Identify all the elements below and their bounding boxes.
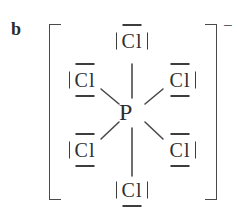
atom-label-cl-upper-right: Cl (170, 70, 191, 90)
lone-pair-bottom-icon (76, 95, 95, 97)
atom-phosphorus: P (119, 100, 133, 124)
lone-pair-top-icon (171, 63, 190, 65)
atom-label-cl-lower-right: Cl (170, 140, 191, 160)
lone-pair-left-icon (69, 142, 71, 159)
lone-pair-bottom-icon (171, 165, 190, 167)
lone-pair-top-icon (76, 63, 95, 65)
bond-p-cl-lr (145, 122, 163, 139)
atom-label-cl-top: Cl (122, 31, 143, 51)
atom-chlorine-upper-left: Cl (63, 70, 107, 96)
lone-pair-left-icon (116, 182, 118, 199)
bracket-left (49, 24, 61, 200)
bond-p-cl-ll (101, 122, 119, 139)
lone-pair-left-icon (69, 72, 71, 89)
atom-chlorine-top: Cl (110, 31, 154, 57)
atom-chlorine-lower-left: Cl (63, 140, 107, 166)
lone-pair-right-icon (147, 182, 149, 199)
lone-pair-left-icon (116, 33, 118, 50)
part-label: b (11, 20, 21, 38)
lewis-structure-figure: b − P Cl Cl Cl Cl Cl Cl (0, 0, 245, 222)
lone-pair-top-icon (123, 24, 142, 26)
atom-chlorine-lower-right: Cl (158, 140, 202, 166)
atom-chlorine-upper-right: Cl (158, 70, 202, 96)
atom-label-p: P (119, 100, 133, 124)
lone-pair-bottom-icon (171, 95, 190, 97)
atom-label-cl-bottom: Cl (122, 180, 143, 200)
atom-label-cl-upper-left: Cl (75, 70, 96, 90)
lone-pair-bottom-icon (76, 165, 95, 167)
lone-pair-right-icon (195, 72, 197, 89)
lone-pair-bottom-icon (123, 205, 142, 207)
lone-pair-right-icon (195, 142, 197, 159)
charge-superscript: − (223, 17, 233, 34)
lone-pair-top-icon (76, 133, 95, 135)
bracket-right (205, 24, 217, 200)
lone-pair-right-icon (147, 33, 149, 50)
atom-label-cl-lower-left: Cl (75, 140, 96, 160)
atom-chlorine-bottom: Cl (110, 180, 154, 206)
lone-pair-top-icon (171, 133, 190, 135)
